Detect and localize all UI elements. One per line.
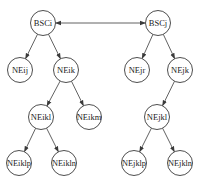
node-neikl: NEikl bbox=[29, 105, 54, 130]
node-label: NEik bbox=[57, 65, 76, 75]
edge-neik-neikl bbox=[47, 81, 60, 106]
edge-neikl-neikln bbox=[47, 128, 59, 152]
edge-bsci-neij bbox=[25, 34, 37, 59]
node-label: BSCj bbox=[149, 18, 167, 28]
node-label: NEiklp bbox=[7, 158, 31, 168]
edge-nejk-nejkl bbox=[162, 81, 174, 106]
edges-layer bbox=[24, 23, 174, 152]
node-label: NEikm bbox=[77, 112, 102, 122]
node-nejkl: NEjkl bbox=[145, 105, 170, 130]
nodes-layer: BSCiBSCjNEijNEikNEjrNEjkNEiklNEikmNEjklN… bbox=[7, 11, 193, 176]
node-label: NEjkln bbox=[168, 158, 193, 168]
edge-bscj-nejk bbox=[163, 34, 174, 58]
node-label: NEikln bbox=[52, 158, 77, 168]
edge-bsci-neik bbox=[48, 34, 60, 59]
node-label: NEjr bbox=[129, 65, 146, 75]
node-neikm: NEikm bbox=[77, 105, 102, 130]
node-neikln: NEikln bbox=[52, 151, 77, 176]
node-bscj: BSCj bbox=[146, 11, 171, 36]
edge-nejkl-nejkln bbox=[163, 128, 175, 152]
node-nejr: NEjr bbox=[125, 58, 150, 83]
node-nejklp: NEjklp bbox=[122, 151, 147, 176]
node-label: NEjk bbox=[171, 65, 190, 75]
node-nejkln: NEjkln bbox=[168, 151, 193, 176]
node-neik: NEik bbox=[54, 58, 79, 83]
tree-diagram: BSCiBSCjNEijNEikNEjrNEjkNEiklNEikmNEjklN… bbox=[0, 0, 203, 182]
node-neiklp: NEiklp bbox=[7, 151, 32, 176]
node-label: NEij bbox=[12, 65, 28, 75]
edge-neik-neikm bbox=[71, 81, 83, 106]
node-nejk: NEjk bbox=[168, 58, 193, 83]
edge-neikl-neiklp bbox=[24, 128, 35, 151]
node-bsci: BSCi bbox=[31, 11, 56, 36]
node-label: NEikl bbox=[31, 112, 52, 122]
node-neij: NEij bbox=[8, 58, 33, 83]
node-label: NEjklp bbox=[122, 158, 146, 168]
edge-bscj-nejr bbox=[142, 34, 153, 58]
node-label: NEjkl bbox=[147, 112, 168, 122]
node-label: BSCi bbox=[34, 18, 53, 28]
edge-nejkl-nejklp bbox=[140, 128, 152, 152]
